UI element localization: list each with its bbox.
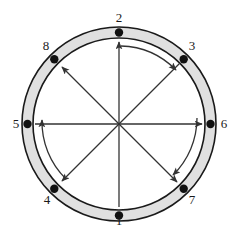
node-label-4: 4 xyxy=(39,193,55,206)
node-dot-3[interactable] xyxy=(180,55,188,63)
node-dot-8[interactable] xyxy=(50,55,58,63)
node-dot-5[interactable] xyxy=(23,120,31,128)
node-dot-7[interactable] xyxy=(180,185,188,193)
node-dot-2[interactable] xyxy=(115,28,123,36)
node-label-1: 1 xyxy=(111,214,127,227)
node-label-3: 3 xyxy=(184,39,200,52)
node-label-8: 8 xyxy=(38,39,54,52)
node-label-6: 6 xyxy=(216,117,232,130)
node-label-2: 2 xyxy=(111,11,127,24)
node-dot-4[interactable] xyxy=(50,185,58,193)
node-label-5: 5 xyxy=(8,117,24,130)
ring-diagram-canvas xyxy=(0,0,244,229)
ring-diagram-figure: 1 2 3 4 5 6 7 8 xyxy=(0,0,244,229)
node-label-7: 7 xyxy=(184,193,200,206)
node-dot-6[interactable] xyxy=(206,120,214,128)
